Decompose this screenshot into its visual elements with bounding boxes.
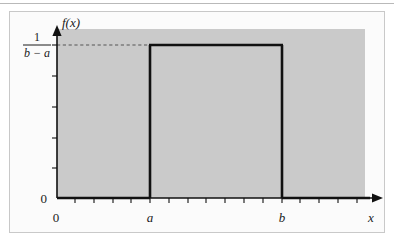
figure-frame: f(x) 0 1 b − a 0 a b x bbox=[9, 11, 385, 233]
y-tick-label-zero: 0 bbox=[41, 191, 48, 206]
fraction-numerator: 1 bbox=[34, 30, 40, 44]
uniform-distribution-plot: f(x) 0 1 b − a 0 a b x bbox=[10, 12, 386, 234]
x-tick-label-b: b bbox=[279, 210, 286, 225]
x-axis-label: x bbox=[367, 210, 374, 225]
plot-svg: f(x) 0 1 b − a 0 a b x bbox=[10, 12, 386, 234]
x-tick-label-a: a bbox=[147, 210, 154, 225]
y-axis-label: f(x) bbox=[62, 15, 80, 30]
fraction-denominator: b − a bbox=[24, 46, 50, 60]
page-top-rule bbox=[0, 3, 394, 4]
x-tick-label-zero: 0 bbox=[53, 210, 60, 225]
